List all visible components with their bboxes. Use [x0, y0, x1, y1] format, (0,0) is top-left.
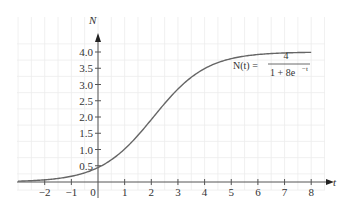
svg-text:8: 8	[308, 186, 314, 198]
svg-text:N(t) =: N(t) =	[233, 60, 258, 72]
svg-text:4: 4	[284, 50, 289, 61]
svg-text:−1: −1	[65, 186, 77, 198]
y-axis-label: N	[88, 14, 97, 26]
svg-text:−t: −t	[302, 65, 308, 73]
svg-text:6: 6	[255, 186, 261, 198]
svg-text:1.5: 1.5	[79, 127, 93, 139]
svg-text:1: 1	[122, 186, 128, 198]
svg-text:1 + 8e: 1 + 8e	[270, 67, 296, 78]
svg-text:4: 4	[202, 186, 208, 198]
svg-text:7: 7	[282, 186, 288, 198]
svg-text:1.0: 1.0	[79, 144, 93, 156]
svg-text:2.0: 2.0	[79, 111, 93, 123]
x-axis-label: t	[333, 176, 337, 188]
logistic-chart: −2−10123456780.51.01.52.02.53.03.54.0 N …	[0, 0, 352, 208]
svg-text:−2: −2	[39, 186, 51, 198]
svg-text:0: 0	[90, 186, 96, 198]
svg-text:2.5: 2.5	[79, 95, 93, 107]
svg-text:4.0: 4.0	[79, 46, 93, 58]
svg-text:5: 5	[229, 186, 235, 198]
svg-text:3.0: 3.0	[79, 79, 93, 91]
svg-text:3.5: 3.5	[79, 62, 93, 74]
svg-text:3: 3	[175, 186, 181, 198]
svg-text:2: 2	[149, 186, 155, 198]
grid	[17, 17, 325, 190]
